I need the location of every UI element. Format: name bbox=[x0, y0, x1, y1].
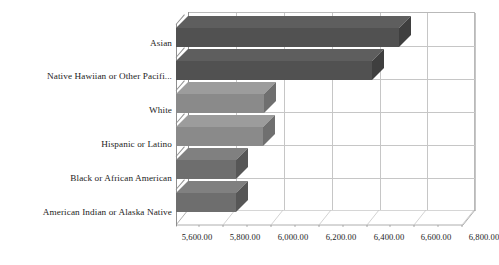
value-axis-tick-label: 6,800.00 bbox=[469, 232, 499, 242]
value-axis-tick-label: 6,400.00 bbox=[374, 232, 404, 242]
value-axis-tick-label: 6,600.00 bbox=[421, 232, 451, 242]
category-label: Black or African American bbox=[70, 173, 172, 183]
bar-asian[interactable] bbox=[176, 16, 416, 52]
value-axis-tick-label: 6,200.00 bbox=[326, 232, 356, 242]
category-label: White bbox=[149, 105, 172, 115]
bar-black-african-american[interactable] bbox=[176, 148, 264, 184]
bar-hispanic-latino[interactable] bbox=[176, 115, 290, 151]
bar-american-indian-alaska-native[interactable] bbox=[176, 181, 264, 217]
bar-white[interactable] bbox=[176, 82, 291, 118]
bar-native-hawaiian[interactable] bbox=[176, 49, 391, 85]
category-label: Asian bbox=[150, 38, 172, 48]
category-label: American Indian or Alaska Native bbox=[43, 207, 172, 217]
value-axis-tick-label: 6,000.00 bbox=[278, 232, 308, 242]
value-axis-tick-label: 5,800.00 bbox=[230, 232, 260, 242]
category-label: Native Hawiian or Other Pacifi... bbox=[47, 71, 172, 81]
category-axis: Asian Native Hawiian or Other Pacifi... … bbox=[0, 0, 176, 230]
value-axis-tick-label: 5,600.00 bbox=[182, 232, 212, 242]
plot-area bbox=[176, 12, 476, 227]
category-label: Hispanic or Latino bbox=[101, 139, 172, 149]
value-axis-labels: 5,600.00 5,800.00 6,000.00 6,200.00 6,40… bbox=[176, 232, 487, 252]
